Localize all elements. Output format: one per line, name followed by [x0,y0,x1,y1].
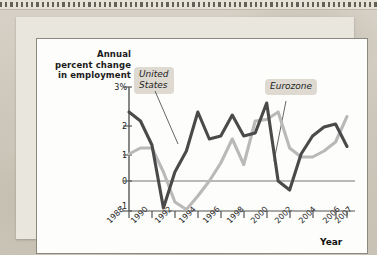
perforation-dots [0,2,377,7]
perforated-edge-strip [0,0,377,10]
plot-svg [37,39,367,253]
y-tick-marks [123,87,132,211]
x-tick-marks [129,211,347,218]
chart-panel: Annual percent change in employment 3% 2… [36,38,368,254]
leader-line-united-states [155,91,178,144]
figure-outer-frame: Annual percent change in employment 3% 2… [16,17,354,239]
